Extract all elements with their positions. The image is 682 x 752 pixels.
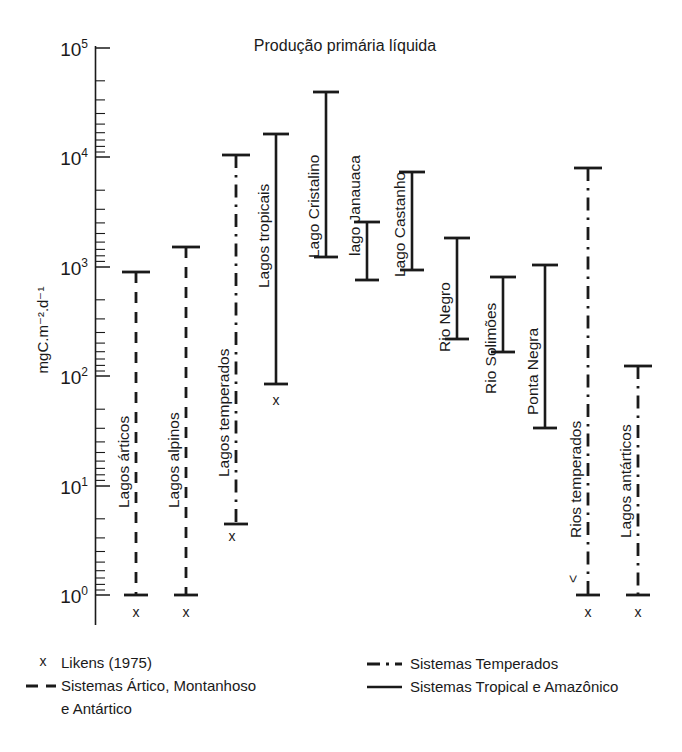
- chart-title: Produção primária líquida: [254, 37, 436, 54]
- range-lagos-alpinos[interactable]: Lagos alpinos x: [165, 247, 200, 620]
- range-lagos-antarticos[interactable]: Lagos antárticos x: [617, 366, 652, 620]
- range-rios-temperados[interactable]: Rios temperados < x: [565, 168, 602, 620]
- range-label-lago-cristalino: Lago Cristalino: [305, 155, 322, 258]
- y-tick-label-1e4: 104: [60, 146, 88, 169]
- y-axis-label: mgC.m⁻².d⁻¹: [34, 287, 51, 374]
- range-label-ponta-negra: Ponta Negra: [524, 328, 541, 415]
- y-tick-label-1e1: 101: [60, 475, 88, 498]
- legend-label-tropical: Sistemas Tropical e Amazônico: [410, 678, 618, 695]
- less-than-annotation: <: [565, 575, 581, 583]
- range-rio-solimoes[interactable]: Rio Solimões: [482, 277, 516, 394]
- range-lagos-temperados[interactable]: Lagos temperados x: [215, 155, 250, 544]
- legend-label-artico-line1: Sistemas Ártico, Montanhoso: [61, 677, 256, 694]
- range-lago-castanho[interactable]: Lago Castanho: [391, 172, 425, 277]
- likens-marker-lagos-alpinos: x: [183, 604, 190, 620]
- range-label-rios-temperados: Rios temperados: [567, 421, 584, 538]
- likens-marker-lagos-articos: x: [133, 604, 140, 620]
- y-axis-label-group: mgC.m⁻².d⁻¹: [34, 287, 51, 374]
- range-label-lagos-tropicais: Lagos tropicais: [255, 183, 272, 288]
- range-lagos-articos[interactable]: Lagos árticos x: [115, 272, 150, 620]
- range-label-rio-solimoes: Rio Solimões: [482, 302, 499, 394]
- legend-x-marker-icon: x: [40, 653, 47, 669]
- likens-marker-lagos-tropicais: x: [273, 392, 280, 408]
- range-label-lagos-alpinos: Lagos alpinos: [165, 412, 182, 508]
- y-tick-label-1e5: 105: [60, 37, 88, 60]
- likens-marker-lagos-temperados: x: [229, 528, 236, 544]
- legend-label-artico-line2: e Antártico: [61, 700, 132, 717]
- legend-item-temperados[interactable]: Sistemas Temperados: [367, 655, 558, 672]
- range-lago-janauaca[interactable]: lago Janauaca: [346, 155, 380, 280]
- y-axis-major-ticks: [96, 48, 111, 595]
- range-lago-cristalino[interactable]: Lago Cristalino: [305, 92, 339, 258]
- likens-marker-rios-temperados: x: [585, 604, 592, 620]
- legend-item-tropical[interactable]: Sistemas Tropical e Amazônico: [367, 678, 618, 695]
- legend-item-likens[interactable]: x Likens (1975): [40, 653, 152, 671]
- range-rio-negro[interactable]: Rio Negro: [436, 238, 470, 352]
- y-tick-label-1e0: 100: [60, 584, 88, 607]
- range-label-rio-negro: Rio Negro: [436, 282, 453, 352]
- range-label-lagos-antarticos: Lagos antárticos: [617, 424, 634, 538]
- figure-container: Produção primária líquida mgC.m⁻².d⁻¹: [0, 0, 682, 752]
- y-axis-tick-labels: 105 104 103 102 101 100: [60, 37, 88, 607]
- range-ponta-negra[interactable]: Ponta Negra: [524, 265, 558, 428]
- range-label-lagos-articos: Lagos árticos: [115, 416, 132, 508]
- y-tick-label-1e2: 102: [60, 365, 88, 388]
- npp-range-chart: Produção primária líquida mgC.m⁻².d⁻¹: [0, 0, 682, 752]
- legend: x Likens (1975) Sistemas Ártico, Montanh…: [26, 653, 618, 717]
- likens-marker-lagos-antarticos: x: [635, 604, 642, 620]
- range-label-lago-janauaca: lago Janauaca: [346, 155, 363, 256]
- legend-label-temperados: Sistemas Temperados: [410, 655, 558, 672]
- legend-item-artico[interactable]: Sistemas Ártico, Montanhoso e Antártico: [26, 677, 256, 717]
- y-tick-label-1e3: 103: [60, 256, 88, 279]
- range-label-lago-castanho: Lago Castanho: [391, 172, 408, 277]
- legend-label-likens: Likens (1975): [61, 654, 152, 671]
- range-label-lagos-temperados: Lagos temperados: [215, 348, 232, 477]
- range-lagos-tropicais[interactable]: Lagos tropicais x: [255, 134, 289, 408]
